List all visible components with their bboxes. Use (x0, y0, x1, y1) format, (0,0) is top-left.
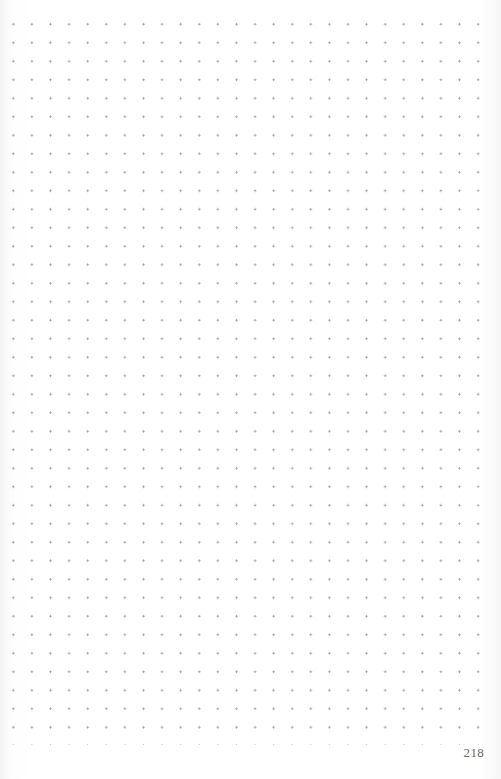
dot-grid (4, 15, 488, 745)
page-number: 218 (464, 745, 484, 761)
notebook-page: 218 (0, 0, 501, 779)
